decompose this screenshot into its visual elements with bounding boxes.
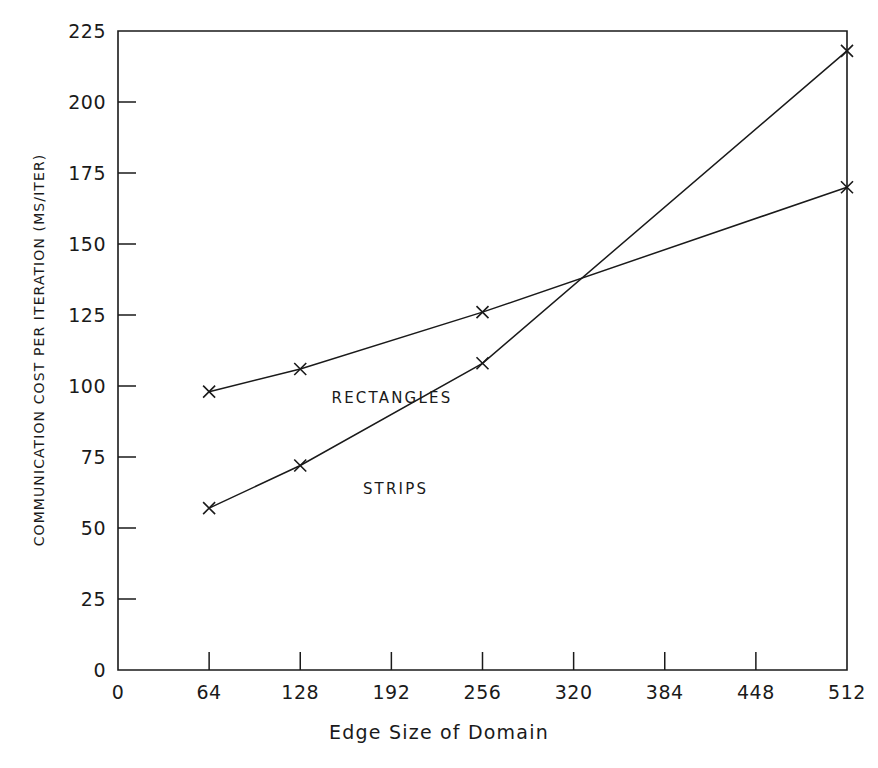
chart-figure: 0255075100125150175200225 06412819225632… (0, 0, 878, 768)
x-tick-label: 256 (464, 681, 502, 703)
data-series-group (203, 45, 853, 514)
y-tick-label: 75 (81, 446, 106, 468)
series-line-rectangles (209, 187, 847, 391)
y-axis-ticks (118, 102, 136, 599)
series-label-strips: STRIPS (363, 480, 428, 498)
plot-frame (118, 31, 847, 670)
y-tick-label: 125 (68, 304, 106, 326)
y-axis-tick-labels: 0255075100125150175200225 (68, 20, 106, 681)
series-line-strips (209, 51, 847, 508)
x-axis-title: Edge Size of Domain (329, 721, 549, 743)
y-tick-label: 50 (81, 517, 106, 539)
y-tick-label: 200 (68, 91, 106, 113)
y-tick-label: 0 (93, 659, 106, 681)
chart-plot-area: 0255075100125150175200225 06412819225632… (0, 0, 878, 768)
x-axis-ticks (209, 652, 756, 670)
x-tick-label: 384 (646, 681, 684, 703)
y-tick-label: 175 (68, 162, 106, 184)
x-tick-label: 448 (737, 681, 775, 703)
x-tick-label: 0 (112, 681, 125, 703)
x-axis-tick-labels: 064128192256320384448512 (112, 681, 866, 703)
y-tick-label: 225 (68, 20, 106, 42)
data-point-marker (203, 386, 215, 398)
y-tick-label: 100 (68, 375, 106, 397)
y-axis-title: COMMUNICATION COST PER ITERATION (MS/ITE… (31, 154, 47, 547)
series-annotation-labels: RECTANGLESSTRIPS (332, 389, 453, 498)
y-tick-label: 25 (81, 588, 106, 610)
x-tick-label: 512 (828, 681, 866, 703)
x-tick-label: 192 (372, 681, 410, 703)
data-point-marker (477, 306, 489, 318)
x-tick-label: 320 (555, 681, 593, 703)
y-tick-label: 150 (68, 233, 106, 255)
data-point-marker (294, 460, 306, 472)
data-point-marker (203, 502, 215, 514)
x-tick-label: 64 (197, 681, 222, 703)
series-label-rectangles: RECTANGLES (332, 389, 453, 407)
data-point-marker (294, 363, 306, 375)
x-tick-label: 128 (281, 681, 319, 703)
data-point-marker (477, 357, 489, 369)
